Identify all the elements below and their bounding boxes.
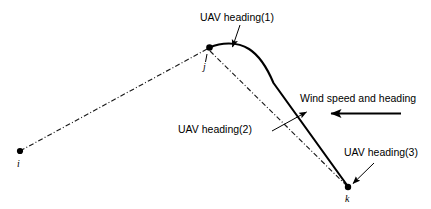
uav-heading-2-label: UAV heading(2) — [178, 123, 252, 135]
node-marker-i — [17, 148, 23, 154]
node-marker-k — [345, 184, 351, 190]
uav-flight-path-group — [210, 44, 349, 187]
uav-heading-1-label: UAV heading(1) — [200, 11, 274, 23]
uav-flight-path — [210, 44, 349, 187]
uav-heading-figure: i j k UAV heading(1) UAV heading(2) UAV … — [0, 0, 431, 209]
reference-leg-i-to-j — [20, 48, 209, 151]
uav-heading-3-label: UAV heading(3) — [344, 146, 418, 158]
node-marker-j — [206, 44, 213, 51]
node-label-k: k — [345, 193, 350, 204]
wind-label: Wind speed and heading — [300, 92, 416, 104]
node-label-j: j — [201, 61, 206, 72]
uav-heading-3-leader — [353, 163, 374, 184]
node-label-i: i — [17, 158, 20, 169]
diagram-canvas: i j k UAV heading(1) UAV heading(2) UAV … — [0, 0, 431, 209]
reference-leg-j-to-k — [210, 51, 348, 187]
node-markers-group — [17, 44, 351, 190]
